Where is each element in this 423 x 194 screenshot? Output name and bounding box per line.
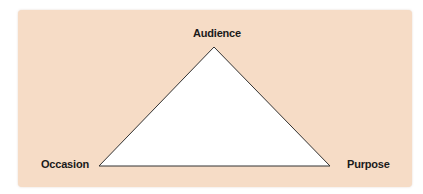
- vertex-label-purpose: Purpose: [347, 158, 390, 170]
- vertex-label-occasion: Occasion: [41, 158, 89, 170]
- vertex-label-audience: Audience: [193, 27, 241, 39]
